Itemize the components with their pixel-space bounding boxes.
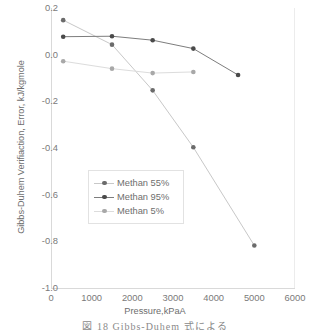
x-axis-line: [51, 288, 295, 289]
y-axis-tick-label: -0.6: [18, 189, 58, 200]
legend-item-label: Methan 55%: [117, 178, 169, 188]
x-axis-tick-label: 5000: [232, 292, 276, 303]
y-axis-tick-label: 0.0: [18, 49, 58, 60]
figure-caption: 図 18 Gibbs-Duhem 式による: [0, 318, 310, 330]
legend-item[interactable]: Methan 5%: [94, 204, 177, 218]
legend: Methan 55%Methan 95%Methan 5%: [88, 170, 184, 224]
legend-marker-icon: [94, 192, 114, 202]
x-axis-tick-label: 4000: [192, 292, 236, 303]
y-axis-tick-label: -0.4: [18, 142, 58, 153]
plot-area: [51, 8, 295, 289]
y-axis-tick-label: -0.2: [18, 95, 58, 106]
legend-item[interactable]: Methan 55%: [94, 176, 177, 190]
y-axis-tick-label: 0.2: [18, 2, 58, 13]
x-axis-title: Pressure,kPaA: [0, 306, 310, 316]
x-axis-tick-label: 6000: [273, 292, 310, 303]
figure-container: Gibbs-Duhem Verifiaction, Error, kJ/kgmo…: [0, 0, 310, 330]
legend-item[interactable]: Methan 95%: [94, 190, 177, 204]
legend-marker-icon: [94, 178, 114, 188]
x-axis-tick-label: 0: [29, 292, 73, 303]
legend-item-label: Methan 95%: [117, 192, 169, 202]
x-axis-tick-label: 2000: [110, 292, 154, 303]
y-axis-tick-label: -0.8: [18, 235, 58, 246]
legend-marker-icon: [94, 206, 114, 216]
legend-item-label: Methan 5%: [117, 206, 164, 216]
x-axis-tick-label: 1000: [70, 292, 114, 303]
x-axis-tick-label: 3000: [151, 292, 195, 303]
